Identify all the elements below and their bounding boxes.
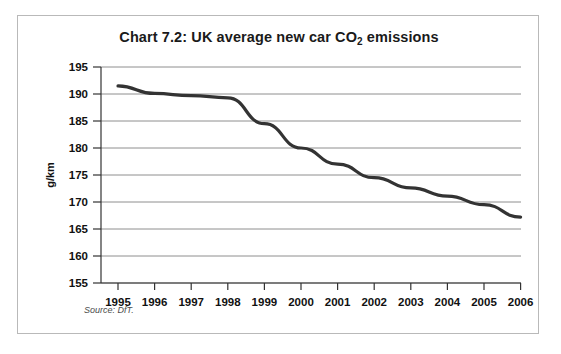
x-tick-label: 2004: [435, 296, 461, 308]
chart-plot-area: 155160165170175180185190195 199519961997…: [18, 16, 540, 335]
x-tick-label: 2001: [325, 296, 351, 308]
y-tick-label: 170: [69, 196, 88, 208]
x-tick-label: 1999: [252, 296, 278, 308]
y-axis-ticks-group: 155160165170175180185190195: [69, 61, 101, 289]
x-tick-label: 2002: [361, 296, 387, 308]
y-axis-title: g/km: [44, 162, 56, 188]
data-series-line: [118, 86, 521, 217]
x-tick-label: 1996: [142, 296, 168, 308]
x-tick-label: 2005: [471, 296, 497, 308]
gridlines-group: [101, 67, 521, 283]
y-tick-label: 190: [69, 88, 88, 100]
x-tick-label: 2000: [288, 296, 314, 308]
y-tick-label: 195: [69, 61, 89, 73]
x-tick-label: 2003: [398, 296, 424, 308]
x-tick-label: 1998: [215, 296, 241, 308]
x-tick-label: 1997: [178, 296, 204, 308]
y-tick-label: 185: [69, 115, 89, 127]
y-tick-label: 165: [69, 223, 89, 235]
x-axis-ticks-group: 1995199619971998199920002001200220032004…: [105, 283, 533, 308]
y-tick-label: 155: [69, 277, 89, 289]
chart-figure-frame: Chart 7.2: UK average new car CO2 emissi…: [17, 15, 539, 334]
y-tick-label: 175: [69, 169, 89, 181]
y-tick-label: 160: [69, 250, 88, 262]
x-tick-label: 2006: [508, 296, 534, 308]
y-tick-label: 180: [69, 142, 88, 154]
source-note: Source: DfT.: [84, 305, 134, 315]
